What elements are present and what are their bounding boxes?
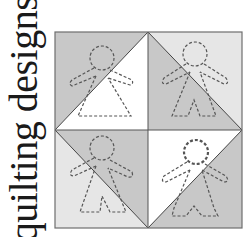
block-top-right [148, 32, 242, 130]
block-bottom-left [55, 130, 148, 228]
block-bottom-right [148, 130, 242, 228]
block-top-left [55, 32, 148, 130]
quilt-block-illustration [0, 0, 252, 237]
